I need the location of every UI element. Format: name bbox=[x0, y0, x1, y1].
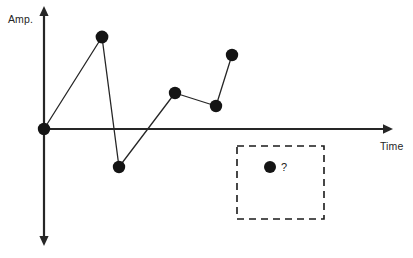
data-point-mid-high bbox=[169, 87, 181, 99]
y-axis-label: Amp. bbox=[8, 14, 33, 25]
data-series-line bbox=[44, 37, 232, 167]
y-axis-arrow-up-icon bbox=[39, 6, 48, 16]
data-point-unknown bbox=[264, 161, 276, 173]
unknown-point-question-mark: ? bbox=[281, 162, 287, 173]
data-point-mid-low bbox=[210, 100, 222, 112]
y-axis-arrow-down-icon bbox=[39, 236, 48, 246]
amplitude-time-diagram: Amp. Time ? bbox=[0, 0, 413, 258]
x-axis-arrow-right-icon bbox=[383, 124, 393, 134]
data-point-peak bbox=[96, 31, 109, 44]
x-axis-label: Time bbox=[380, 141, 403, 152]
data-point-trough bbox=[113, 161, 125, 173]
data-point-late-high bbox=[226, 49, 238, 61]
unknown-region-box bbox=[237, 146, 324, 219]
data-point-origin bbox=[38, 123, 50, 135]
plot-canvas bbox=[0, 0, 413, 258]
